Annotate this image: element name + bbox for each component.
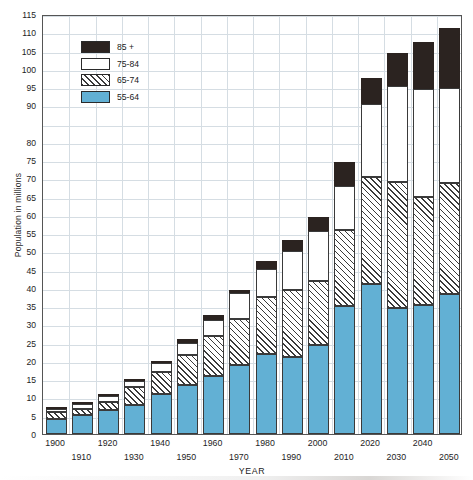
- x-tick-label-2030: 2030: [373, 452, 419, 462]
- gridline-vertical: [253, 16, 254, 434]
- gridline-vertical: [227, 16, 228, 434]
- y-tick-label: 45: [2, 266, 36, 276]
- chart-legend: 85 +75-8465-7455-64: [78, 37, 142, 107]
- y-tick-label: 55: [2, 229, 36, 239]
- bar-segment-75-84: [98, 396, 119, 401]
- y-tick-label: 105: [2, 47, 36, 57]
- bar-segment-75-84: [439, 88, 460, 184]
- bar-segment-75-84: [177, 343, 198, 354]
- x-tick-label-1950: 1950: [163, 452, 209, 462]
- bar-segment-75-84: [334, 186, 355, 230]
- bar-1900: [46, 14, 67, 434]
- bar-1960: [203, 14, 224, 434]
- bar-segment-85: [387, 53, 408, 86]
- gridline-vertical: [411, 16, 412, 434]
- bar-segment-65-74: [46, 412, 67, 419]
- y-tick-label: 100: [2, 65, 36, 75]
- x-tick-label-1980: 1980: [242, 438, 288, 448]
- bar-segment-85: [308, 217, 329, 232]
- x-tick-label-2020: 2020: [347, 438, 393, 448]
- bar-segment-75-84: [282, 251, 303, 290]
- y-tick-label: 75: [2, 156, 36, 166]
- y-tick-label: 90: [2, 101, 36, 111]
- bar-segment-75-84: [413, 89, 434, 198]
- bar-segment-65-74: [229, 319, 250, 365]
- bar-segment-65-74: [124, 387, 145, 405]
- y-tick-label: 115: [2, 10, 36, 20]
- bar-segment-55-64: [151, 394, 172, 434]
- gridline-vertical: [332, 16, 333, 434]
- bar-2020: [361, 14, 382, 434]
- x-tick-label-2050: 2050: [426, 452, 472, 462]
- bar-segment-65-74: [361, 177, 382, 284]
- legend-swatch-icon: [81, 91, 110, 103]
- gridline-vertical: [437, 16, 438, 434]
- gridline-vertical: [174, 16, 175, 434]
- y-tick-label: 65: [2, 193, 36, 203]
- y-tick-label: 70: [2, 174, 36, 184]
- bar-segment-65-74: [282, 290, 303, 356]
- bar-segment-55-64: [46, 419, 67, 434]
- bar-segment-65-74: [151, 372, 172, 394]
- x-tick-label-1960: 1960: [190, 438, 236, 448]
- bar-segment-55-64: [282, 357, 303, 434]
- x-axis-title: YEAR: [42, 466, 462, 476]
- y-tick-label: 110: [2, 28, 36, 38]
- bar-segment-55-64: [256, 354, 277, 434]
- bar-2040: [413, 14, 434, 434]
- bar-segment-75-84: [72, 404, 93, 409]
- legend-label: 65-74: [117, 75, 139, 85]
- y-tick-label: 95: [2, 83, 36, 93]
- bar-2030: [387, 14, 408, 434]
- bar-2010: [334, 14, 355, 434]
- bar-segment-75-84: [124, 381, 145, 386]
- y-tick-label: 35: [2, 302, 36, 312]
- bar-segment-55-64: [72, 415, 93, 434]
- bar-segment-65-74: [177, 355, 198, 385]
- bar-segment-65-74: [256, 297, 277, 353]
- gridline-vertical: [358, 16, 359, 434]
- bar-segment-55-64: [98, 410, 119, 434]
- bar-segment-85: [203, 315, 224, 319]
- bar-segment-85: [151, 361, 172, 363]
- bar-segment-85: [124, 379, 145, 382]
- bar-segment-65-74: [413, 197, 434, 305]
- y-tick-label: 20: [2, 357, 36, 367]
- legend-swatch-icon: [81, 74, 110, 86]
- bar-segment-55-64: [413, 305, 434, 434]
- population-bar-chart: Population in millions 05101520253035404…: [0, 0, 473, 480]
- bar-segment-85: [439, 28, 460, 88]
- bar-segment-75-84: [203, 320, 224, 336]
- legend-label: 85 +: [117, 42, 134, 52]
- bar-segment-65-74: [98, 402, 119, 410]
- bar-segment-85: [177, 339, 198, 343]
- bar-segment-75-84: [387, 86, 408, 182]
- x-tick-label-1990: 1990: [268, 452, 314, 462]
- gridline-vertical: [384, 16, 385, 434]
- bar-segment-85: [98, 394, 119, 396]
- x-tick-label-1940: 1940: [137, 438, 183, 448]
- legend-swatch-icon: [81, 58, 110, 70]
- bar-2000: [308, 14, 329, 434]
- x-tick-label-2010: 2010: [321, 452, 367, 462]
- bar-1970: [229, 14, 250, 434]
- y-tick-label: 5: [2, 412, 36, 422]
- legend-item-55-64: 55-64: [81, 89, 139, 106]
- bar-segment-85: [282, 240, 303, 251]
- y-tick-label: 0: [2, 430, 36, 440]
- legend-item-85: 85 +: [81, 39, 139, 56]
- bar-segment-75-84: [361, 104, 382, 177]
- gridline-vertical: [279, 16, 280, 434]
- gridline-vertical: [306, 16, 307, 434]
- bar-segment-85: [334, 162, 355, 187]
- x-tick-label-1910: 1910: [58, 452, 104, 462]
- bar-segment-65-74: [72, 409, 93, 416]
- bar-segment-65-74: [387, 182, 408, 307]
- bar-2050: [439, 14, 460, 434]
- bar-segment-85: [361, 78, 382, 104]
- bar-segment-85: [413, 42, 434, 89]
- bar-segment-75-84: [308, 231, 329, 281]
- gridline-vertical: [148, 16, 149, 434]
- bar-segment-55-64: [439, 294, 460, 434]
- legend-label: 55-64: [117, 92, 139, 102]
